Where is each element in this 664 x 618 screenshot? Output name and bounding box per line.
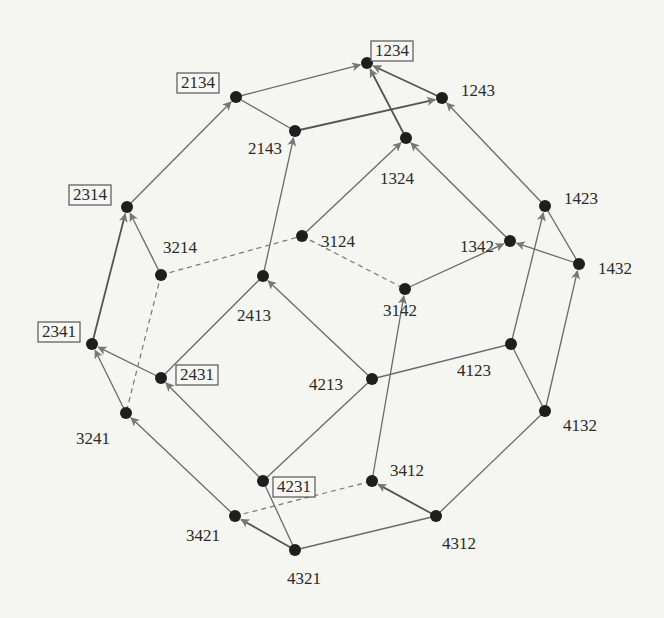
node-label-text: 4231 [277, 477, 311, 496]
edge-3214-to-2314 [130, 213, 161, 275]
nodes-layer [86, 57, 585, 556]
edge-4231-to-2431 [166, 383, 263, 481]
node-label-4321: 4321 [287, 569, 321, 588]
node-2413 [257, 270, 269, 282]
node-label-text: 1243 [461, 81, 495, 100]
node-2314 [121, 201, 133, 213]
node-4312 [430, 510, 442, 522]
node-label-3241: 3241 [76, 429, 110, 448]
node-label-4213: 4213 [309, 375, 343, 394]
permutohedron-graph: 1234213412432143132423141423312432141342… [0, 0, 664, 618]
node-label-1324: 1324 [380, 169, 415, 188]
node-3241 [120, 407, 132, 419]
node-4321 [289, 544, 301, 556]
node-label-text: 3241 [76, 429, 110, 448]
node-2341 [86, 338, 98, 350]
edge-2431-to-2341 [98, 347, 161, 378]
node-label-text: 2314 [73, 185, 108, 204]
edge-2431-to-2413 [161, 276, 263, 378]
node-label-text: 1423 [564, 189, 598, 208]
edge-4321-to-3421 [241, 519, 295, 550]
node-3421 [229, 510, 241, 522]
node-label-4132: 4132 [563, 416, 597, 435]
node-label-3214: 3214 [163, 238, 198, 257]
node-label-2314: 2314 [69, 185, 111, 205]
edge-1342-to-1324 [411, 143, 510, 241]
edge-2134-to-2143 [236, 97, 295, 131]
edge-3412-to-3142 [372, 296, 404, 481]
node-label-text: 3421 [186, 526, 220, 545]
node-1243 [436, 92, 448, 104]
labels-layer: 1234213412432143132423141423312432141342… [38, 41, 632, 588]
edge-4132-to-1432 [545, 271, 577, 411]
node-label-text: 3214 [163, 238, 198, 257]
node-label-1423: 1423 [564, 189, 598, 208]
edge-1423-to-1243 [447, 103, 545, 206]
node-3412 [366, 475, 378, 487]
edge-2341-to-2314 [92, 214, 125, 344]
node-label-3421: 3421 [186, 526, 220, 545]
node-4132 [539, 405, 551, 417]
node-label-text: 1342 [460, 237, 494, 256]
node-3142 [399, 283, 411, 295]
node-label-text: 4123 [457, 361, 491, 380]
node-label-text: 3142 [383, 301, 417, 320]
edge-4321-to-4312 [295, 516, 436, 550]
node-4213 [366, 373, 378, 385]
node-1342 [504, 235, 516, 247]
edge-3124-to-1324 [302, 143, 401, 236]
node-label-3142: 3142 [383, 301, 417, 320]
node-label-text: 1234 [375, 41, 410, 60]
edge-4312-to-3412 [378, 484, 436, 516]
node-label-1243: 1243 [461, 81, 495, 100]
node-label-2413: 2413 [237, 306, 271, 325]
node-label-2431: 2431 [176, 365, 218, 385]
node-2431 [155, 372, 167, 384]
node-4231 [257, 475, 269, 487]
node-1423 [539, 200, 551, 212]
edge-4123-to-1423 [511, 213, 543, 344]
node-3214 [155, 269, 167, 281]
node-label-text: 3124 [321, 232, 356, 251]
edge-3214-to-3241 [126, 275, 161, 413]
node-2134 [230, 91, 242, 103]
node-label-text: 2143 [248, 139, 282, 158]
edge-1423-to-1432 [545, 206, 579, 264]
node-label-text: 4321 [287, 569, 321, 588]
edge-4123-to-4132 [511, 344, 545, 411]
edge-4312-to-4132 [436, 411, 545, 516]
edge-3241-to-2341 [95, 350, 126, 413]
node-label-text: 3412 [390, 461, 424, 480]
node-label-text: 1432 [598, 259, 632, 278]
edge-2134-to-1234 [236, 65, 360, 97]
node-label-4312: 4312 [442, 534, 476, 553]
node-2143 [289, 125, 301, 137]
node-label-3412: 3412 [390, 461, 424, 480]
diagram-canvas: 1234213412432143132423141423312432141342… [0, 0, 664, 618]
edge-1432-to-1342 [517, 243, 579, 264]
node-label-2143: 2143 [248, 139, 282, 158]
edge-2314-to-2134 [127, 102, 231, 207]
node-1432 [573, 258, 585, 270]
node-label-4123: 4123 [457, 361, 491, 380]
node-4123 [505, 338, 517, 350]
node-label-3124: 3124 [321, 232, 356, 251]
node-label-text: 4213 [309, 375, 343, 394]
node-label-text: 4132 [563, 416, 597, 435]
node-label-2341: 2341 [38, 322, 80, 342]
node-label-1234: 1234 [371, 41, 413, 61]
edge-4213-to-2413 [268, 281, 372, 379]
edge-2143-to-1243 [295, 100, 435, 131]
edge-2413-to-2143 [263, 138, 293, 276]
edge-3421-to-3241 [131, 418, 235, 516]
node-label-text: 1324 [380, 169, 415, 188]
node-label-1342: 1342 [460, 237, 494, 256]
node-label-text: 4312 [442, 534, 476, 553]
node-label-text: 2134 [181, 73, 216, 92]
node-label-text: 2413 [237, 306, 271, 325]
node-3124 [296, 230, 308, 242]
node-label-text: 2341 [42, 322, 76, 341]
edge-4231-to-4213 [263, 379, 372, 481]
edges-layer [92, 65, 579, 550]
node-label-2134: 2134 [177, 73, 219, 93]
